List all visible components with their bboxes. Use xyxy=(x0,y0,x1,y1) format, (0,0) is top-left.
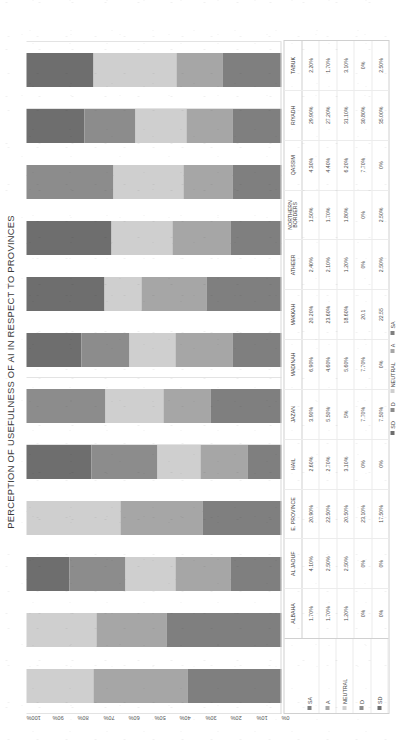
bar-segment-neutral xyxy=(105,389,163,424)
bar-column xyxy=(26,98,281,154)
bar-segment-neutral xyxy=(26,669,93,704)
table-column: ALBAHA1.70%1.70%1.20%0%0% xyxy=(284,588,388,638)
legend-item-label: D xyxy=(389,402,395,406)
bar-segment-a xyxy=(175,557,230,592)
axis-tick-50pct: 50% xyxy=(154,715,165,721)
table-row-header-label: A xyxy=(324,700,330,704)
table-column: RIYADH29.90%27.20%31.10%30.80%35.00% xyxy=(284,90,388,140)
legend-swatch-icon xyxy=(390,389,394,393)
table-cell: 30.80% xyxy=(354,91,372,140)
bar-segment-a xyxy=(163,389,210,424)
table-cell: 1.20% xyxy=(337,589,355,638)
table-column-header: ALBAHA xyxy=(284,589,302,638)
bar-segment-d xyxy=(81,333,130,368)
table-cell: 4.30% xyxy=(302,141,320,190)
table-cell: 5% xyxy=(337,390,355,439)
plot-area xyxy=(26,42,281,714)
axis-tick-0pct: 0% xyxy=(281,715,289,721)
table-cell: 2.50% xyxy=(372,191,389,240)
chart-title: PERCEPTION OF USEFULNESS OF AI IN RESPEC… xyxy=(4,0,15,744)
table-column-header: MAKKAH xyxy=(284,290,302,339)
bar-segment-a xyxy=(96,613,166,648)
bar-segment-neutral xyxy=(111,221,172,256)
table-row-header-neutral: NEUTRAL xyxy=(336,639,353,713)
table-row-header-sd: SD xyxy=(371,639,388,713)
bar-column xyxy=(26,434,281,490)
table-cell: 7.50% xyxy=(372,390,389,439)
axis-tick-80pct: 80% xyxy=(77,715,88,721)
legend-item-neutral: NEUTRAL xyxy=(389,362,395,393)
bar-segment-sa xyxy=(230,221,281,256)
bar-segment-sd xyxy=(26,109,84,144)
stacked-bar xyxy=(26,221,281,256)
bar-column xyxy=(26,210,281,266)
table-cell: 0% xyxy=(354,240,372,289)
bar-segment-neutral xyxy=(125,557,175,592)
axis-tick-10pct: 10% xyxy=(256,715,267,721)
axis-tick-60pct: 60% xyxy=(128,715,139,721)
stacked-bar xyxy=(26,613,281,648)
bar-segment-sa xyxy=(232,109,282,144)
axis-tick-100pct: 100% xyxy=(26,715,40,721)
bar-column xyxy=(26,378,281,434)
table-cell: 20.1 xyxy=(354,290,372,339)
bar-segment-neutral xyxy=(26,501,120,536)
bar-segment-sa xyxy=(202,501,281,536)
bar-column xyxy=(26,154,281,210)
bar-segment-a xyxy=(93,669,187,704)
table-cell: 20.20% xyxy=(302,290,320,339)
bar-segment-d xyxy=(84,109,135,144)
bar-column xyxy=(26,602,281,658)
legend-item-label: SA xyxy=(389,321,395,328)
rotated-chart-canvas: PERCEPTION OF USEFULNESS OF AI IN RESPEC… xyxy=(0,0,397,744)
axis-tick-90pct: 90% xyxy=(52,715,63,721)
bar-segment-neutral xyxy=(93,53,176,88)
stacked-bar xyxy=(26,501,281,536)
bar-segment-neutral xyxy=(135,109,186,144)
legend-swatch-icon xyxy=(307,706,311,710)
chart-legend: SDDNEUTRALASA xyxy=(389,42,395,714)
bar-segment-sa xyxy=(222,53,281,88)
table-row-header-d: D xyxy=(353,639,370,713)
bar-segment-a xyxy=(120,501,202,536)
legend-swatch-icon xyxy=(390,431,394,435)
table-cell: 22.55 xyxy=(372,290,389,339)
table-column-header: RIYADH xyxy=(284,91,302,140)
table-cell: 2.50% xyxy=(372,240,389,289)
axis-tick-40pct: 40% xyxy=(179,715,190,721)
chart-page: PERCEPTION OF USEFULNESS OF AI IN RESPEC… xyxy=(0,0,397,744)
bar-columns xyxy=(26,42,281,714)
bar-segment-d xyxy=(69,557,125,592)
bar-segment-sd xyxy=(26,277,104,312)
table-column-header: NORTHERN BORDERS xyxy=(284,191,302,240)
table-column: QASSIM4.30%4.40%6.20%7.70%0% xyxy=(284,140,388,190)
bar-segment-sa xyxy=(166,613,281,648)
bar-segment-sd xyxy=(26,557,69,592)
table-column: TABUK2.20%1.70%3.10%0%2.50% xyxy=(284,41,388,90)
table-cell: 2.40% xyxy=(302,240,320,289)
table-cell: 17.50% xyxy=(372,490,389,539)
table-cell: 7.70% xyxy=(354,340,372,389)
table-column-header: QASSIM xyxy=(284,141,302,190)
stacked-bar xyxy=(26,557,281,592)
table-row-header-label: SD xyxy=(376,697,382,705)
axis-line xyxy=(280,42,281,714)
bar-segment-a xyxy=(183,165,233,200)
bar-column xyxy=(26,658,281,714)
legend-swatch-icon xyxy=(359,706,363,710)
legend-item-label: NEUTRAL xyxy=(389,362,395,387)
legend-item-label: SD xyxy=(389,421,395,429)
stacked-bar xyxy=(26,53,281,88)
legend-swatch-icon xyxy=(325,706,329,710)
table-column: NORTHERN BORDERS1.50%1.70%1.80%0%2.50% xyxy=(284,190,388,240)
table-cell: 0% xyxy=(354,440,372,489)
table-cell: 2.50% xyxy=(372,41,389,90)
table-cell: 0% xyxy=(354,539,372,588)
table-column-header: AL JAOUF xyxy=(284,539,302,588)
legend-swatch-icon xyxy=(390,331,394,335)
bar-segment-sd xyxy=(26,53,93,88)
table-cell: 6.90% xyxy=(302,340,320,389)
table-cell: 20.50% xyxy=(337,490,355,539)
table-cell: 1.70% xyxy=(319,589,337,638)
table-cell: 1.80% xyxy=(337,191,355,240)
